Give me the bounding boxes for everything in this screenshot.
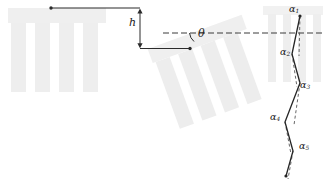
arrow-head-up xyxy=(137,8,142,13)
label-alpha-4-sub: 4 xyxy=(276,116,280,122)
label-alpha-2-sub: 2 xyxy=(286,51,290,57)
label-height-h: h xyxy=(129,17,136,28)
label-alpha-3-sub: 3 xyxy=(306,84,310,90)
label-alpha-4: α4 xyxy=(270,112,280,123)
zigzag-endpoint-bottom xyxy=(284,174,287,177)
label-alpha-5-sub: 5 xyxy=(305,145,309,151)
tilted-comb xyxy=(148,15,271,130)
label-alpha-2: α2 xyxy=(280,47,290,58)
upright-comb xyxy=(8,8,106,92)
angle-vertex-dot xyxy=(188,47,191,50)
reference-dot-left xyxy=(49,6,52,9)
arrow-head-down xyxy=(137,43,142,48)
figure-svg xyxy=(0,0,324,187)
figure-canvas: h θ α1 α2 α3 α4 α5 xyxy=(0,0,324,187)
label-alpha-1: α1 xyxy=(289,4,299,15)
label-alpha-5: α5 xyxy=(299,141,309,152)
label-angle-theta: θ xyxy=(198,28,205,39)
label-alpha-3: α3 xyxy=(300,80,310,91)
right-backdrop-comb xyxy=(263,6,323,82)
label-alpha-1-sub: 1 xyxy=(295,8,299,14)
